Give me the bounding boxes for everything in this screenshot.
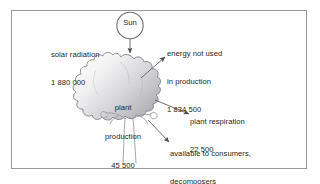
- plant-production-line1: plant: [95, 103, 151, 113]
- sun-label: Sun: [116, 18, 144, 27]
- plant-respiration-line1: plant respiration: [190, 117, 245, 126]
- energy-not-used-line2: in production: [167, 77, 222, 86]
- arrow-available-consumers: [148, 120, 169, 142]
- label-available-to-consumers: available to consumers, decomposers 23 0…: [170, 130, 251, 184]
- plant-production-line2: production: [95, 132, 151, 142]
- available-consumers-line2: decomposers: [170, 177, 251, 184]
- plant-production-value: 45 500: [95, 161, 151, 171]
- solar-radiation-line1: solar radiation: [51, 50, 99, 59]
- energy-not-used-line1: energy not used: [167, 49, 222, 58]
- solar-radiation-value: 1 880 000: [51, 78, 99, 87]
- diagram-canvas: Sun solar radiation 1 880 000 energy not…: [0, 0, 320, 184]
- available-consumers-line1: available to consumers,: [170, 149, 251, 158]
- label-plant-production: plant production 45 500: [95, 83, 151, 184]
- label-solar-radiation: solar radiation 1 880 000: [51, 31, 99, 106]
- diagram-graphics: [0, 0, 320, 184]
